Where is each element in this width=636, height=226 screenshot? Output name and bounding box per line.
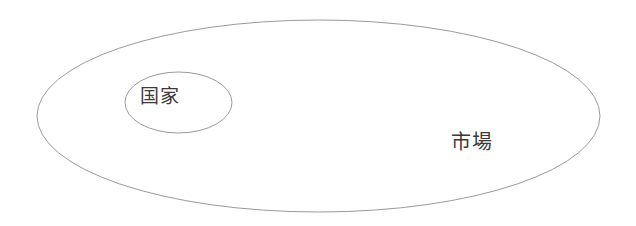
outer-ellipse-market xyxy=(37,20,600,212)
outer-region-label-market: 市場 xyxy=(451,132,492,152)
venn-diagram-svg xyxy=(0,0,636,226)
diagram-canvas: 市場 国家 xyxy=(0,0,636,226)
inner-region-label-state: 国家 xyxy=(140,87,179,106)
